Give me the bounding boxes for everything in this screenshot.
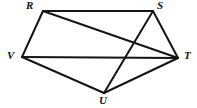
vertex-label-s: S [157, 0, 163, 11]
edge-uv [22, 57, 104, 93]
figure-canvas [0, 0, 197, 108]
geometry-figure: RSTUV [0, 0, 197, 108]
edge-vr [22, 11, 43, 57]
edge-vt [22, 57, 178, 58]
vertex-label-v: V [7, 50, 14, 61]
vertex-label-r: R [26, 0, 33, 11]
vertex-label-u: U [99, 95, 107, 106]
vertex-label-t: T [184, 50, 191, 61]
edges-group [22, 11, 178, 93]
